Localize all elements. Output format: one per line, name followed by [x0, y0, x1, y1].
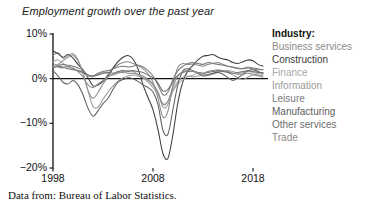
legend-item-other-services: Other services: [272, 118, 352, 131]
chart-figure: Employment growth over the past year 10%…: [0, 0, 373, 208]
y-axis-tick-label: 10%: [0, 27, 47, 39]
legend: Industry: Business servicesConstructionF…: [272, 27, 352, 144]
y-axis-tick-label: 0%: [0, 72, 47, 84]
x-axis-tick-label: 2008: [133, 172, 173, 184]
legend-item-trade: Trade: [272, 131, 352, 144]
legend-item-finance: Finance: [272, 66, 352, 79]
legend-item-business-services: Business services: [272, 40, 352, 53]
x-axis-tick-label: 1998: [33, 172, 73, 184]
legend-item-leisure: Leisure: [272, 92, 352, 105]
legend-item-construction: Construction: [272, 53, 352, 66]
x-axis-tick-label: 2018: [233, 172, 273, 184]
legend-item-manufacturing: Manufacturing: [272, 105, 352, 118]
legend-item-information: Information: [272, 79, 352, 92]
figure-caption: Data from: Bureau of Labor Statistics.: [8, 189, 177, 201]
legend-title: Industry:: [272, 27, 352, 40]
series-lines: [53, 51, 263, 160]
y-axis-tick-label: −10%: [0, 116, 47, 128]
legend-items: Business servicesConstructionFinanceInfo…: [272, 40, 352, 144]
